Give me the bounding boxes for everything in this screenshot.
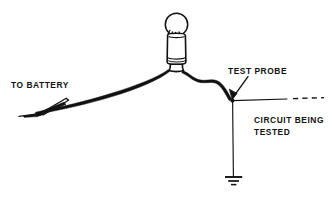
lamp-socket-base (169, 64, 183, 71)
circuit-line-dashed (293, 98, 324, 99)
test-probe-leader-arrow (229, 77, 248, 100)
label-to-battery: TO BATTERY (11, 80, 69, 92)
probe-lead-curve (182, 71, 232, 101)
label-circuit-being-tested: CIRCUIT BEING TESTED (254, 115, 324, 138)
label-circuit-being-tested-line1: CIRCUIT BEING (254, 115, 324, 125)
probe-lead-wire (182, 71, 232, 101)
circuit-ground-riser (233, 101, 234, 177)
ground-symbol-icon (225, 177, 242, 185)
diagram-canvas (0, 0, 331, 198)
label-test-probe: TEST PROBE (228, 66, 287, 78)
test-lamp-assembly (165, 13, 187, 71)
continuity-test-lamp-diagram: TO BATTERY TEST PROBE CIRCUIT BEING TEST… (0, 0, 331, 198)
battery-lead-wire (19, 69, 170, 116)
alligator-clip-hinge (39, 113, 42, 116)
label-circuit-being-tested-line2: TESTED (254, 127, 324, 139)
circuit-line-solid (232, 99, 287, 101)
